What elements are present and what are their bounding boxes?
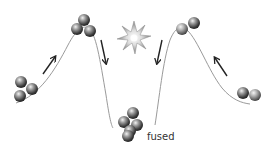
right-start-nucleus <box>237 87 261 101</box>
fused-nucleus <box>118 107 143 142</box>
left-peak-nucleus <box>71 14 96 37</box>
right-energy-curve <box>155 28 250 125</box>
left-down-arrow-icon <box>101 40 106 63</box>
fusion-diagram: fused <box>0 0 273 150</box>
left-energy-curve <box>16 27 113 128</box>
collision-starburst-icon <box>117 21 151 54</box>
right-down-arrow-icon <box>157 40 162 63</box>
right-peak-nucleus <box>176 17 200 35</box>
right-up-arrow-icon <box>215 58 227 76</box>
fused-label: fused <box>147 132 175 142</box>
